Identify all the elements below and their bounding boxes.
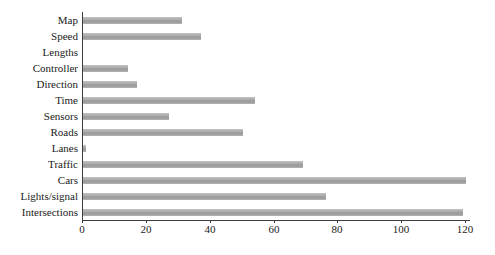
bar-intersections xyxy=(83,209,463,216)
category-label: Controller xyxy=(0,60,78,76)
x-tick-label: 120 xyxy=(445,223,485,235)
bar-map xyxy=(83,17,182,24)
bar-traffic xyxy=(83,161,303,168)
category-label: Speed xyxy=(0,28,78,44)
x-tick-label: 60 xyxy=(254,223,294,235)
category-label: Cars xyxy=(0,172,78,188)
bar-direction xyxy=(83,81,137,88)
bar-chart: MapSpeedLengthsControllerDirectionTimeSe… xyxy=(0,0,495,255)
category-label: Sensors xyxy=(0,108,78,124)
bar-controller xyxy=(83,65,128,72)
bar-speed xyxy=(83,33,201,40)
bar-roads xyxy=(83,129,243,136)
bar-lights-signal xyxy=(83,193,326,200)
x-tick-label: 100 xyxy=(381,223,421,235)
x-tick-label: 80 xyxy=(317,223,357,235)
bar-sensors xyxy=(83,113,169,120)
x-tick-label: 0 xyxy=(62,223,102,235)
category-label: Lanes xyxy=(0,140,78,156)
category-label: Traffic xyxy=(0,156,78,172)
x-tick-label: 20 xyxy=(126,223,166,235)
category-label: Intersections xyxy=(0,204,78,220)
x-tick-label: 40 xyxy=(190,223,230,235)
bar-lanes xyxy=(83,145,86,152)
plot-area: MapSpeedLengthsControllerDirectionTimeSe… xyxy=(0,0,495,255)
category-label: Roads xyxy=(0,124,78,140)
category-label: Time xyxy=(0,92,78,108)
category-label: Direction xyxy=(0,76,78,92)
x-axis-line xyxy=(82,220,470,221)
category-label: Lights/signal xyxy=(0,188,78,204)
bar-time xyxy=(83,97,255,104)
category-label: Lengths xyxy=(0,44,78,60)
category-label: Map xyxy=(0,12,78,28)
bar-cars xyxy=(83,177,466,184)
